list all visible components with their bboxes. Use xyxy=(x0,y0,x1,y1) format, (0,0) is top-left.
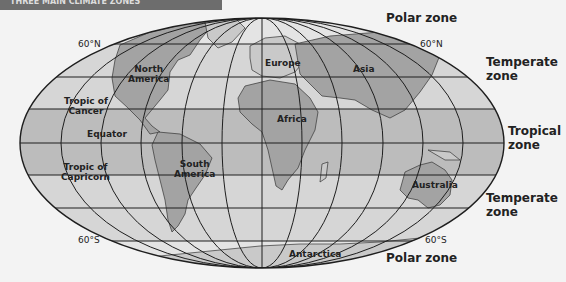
label-antarctica: Antarctica xyxy=(289,249,341,259)
label-temperate-zone-south: Temperate zone xyxy=(486,192,558,220)
label-europe: Europe xyxy=(265,58,301,68)
label-australia: Australia xyxy=(412,180,458,190)
label-text: zone xyxy=(508,139,561,153)
label-asia: Asia xyxy=(353,64,374,74)
label-text: Cancer xyxy=(64,106,108,116)
label-text: Tropical xyxy=(508,125,561,139)
label-text: America xyxy=(174,169,215,179)
label-polar-zone-south: Polar zone xyxy=(386,252,457,266)
label-tropic-of-cancer: Tropic of Cancer xyxy=(64,96,108,117)
label-africa: Africa xyxy=(277,114,307,124)
label-temperate-zone-north: Temperate zone xyxy=(486,56,558,84)
label-text: zone xyxy=(486,206,558,220)
label-text: zone xyxy=(486,70,558,84)
label-text: Tropic of xyxy=(64,96,108,106)
label-north-america: North America xyxy=(128,64,169,85)
label-tropical-zone: Tropical zone xyxy=(508,125,561,153)
label-60s-right: 60°S xyxy=(425,235,447,245)
label-equator: Equator xyxy=(87,129,127,139)
label-text: Tropic of xyxy=(61,162,110,172)
label-60n-right: 60°N xyxy=(420,39,443,49)
label-60s-left: 60°S xyxy=(78,235,100,245)
label-text: Temperate xyxy=(486,56,558,70)
label-text: Temperate xyxy=(486,192,558,206)
label-text: South xyxy=(174,159,215,169)
label-tropic-of-capricorn: Tropic of Capricorn xyxy=(61,162,110,183)
label-60n-left: 60°N xyxy=(78,39,101,49)
label-text: North xyxy=(128,64,169,74)
label-text: Capricorn xyxy=(61,172,110,182)
label-polar-zone-north: Polar zone xyxy=(386,12,457,26)
label-text: America xyxy=(128,74,169,84)
label-south-america: South America xyxy=(174,159,215,180)
